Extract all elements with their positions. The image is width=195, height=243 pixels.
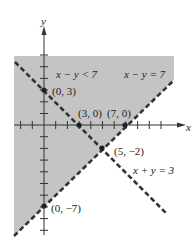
line-x-minus-y-eq-7-label: x − y = 7 (123, 68, 166, 80)
point-0-neg7 (41, 203, 46, 208)
line-x-plus-y-eq-3-label: x + y = 3 (132, 164, 175, 176)
graph: y x x − y < 7 x − y = 7 (0, 3) (3, 0) (7… (0, 0, 195, 243)
point-7-0-label: (7, 0) (107, 107, 131, 120)
inequality-label: x − y < 7 (55, 68, 98, 80)
point-5-neg2 (99, 145, 104, 150)
point-7-0 (122, 122, 127, 127)
shaded-region (14, 56, 174, 236)
point-5-neg2-label: (5, −2) (114, 145, 144, 158)
point-3-0 (76, 122, 81, 127)
point-0-3-label: (0, 3) (52, 85, 76, 98)
x-axis-label: x (185, 121, 191, 133)
x-axis-arrow (177, 123, 186, 128)
point-0-neg7-label: (0, −7) (51, 202, 81, 215)
y-axis-label: y (40, 15, 46, 27)
y-axis-arrow (42, 26, 47, 35)
point-3-0-label: (3, 0) (78, 107, 102, 120)
point-0-3 (41, 87, 46, 92)
